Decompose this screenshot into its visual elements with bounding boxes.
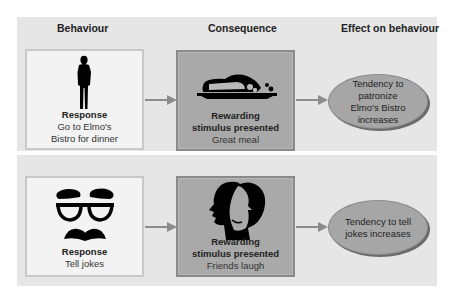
effect-line2: jokes increases — [345, 228, 411, 240]
consequence-desc: Friends laugh — [178, 260, 293, 272]
behaviour-box-1: Response Go to Elmo's Bistro for dinner — [25, 49, 144, 150]
effect-ellipse-1: Tendency to patronize Elmo's Bistro incr… — [328, 74, 428, 129]
response-desc-line1: Go to Elmo's — [27, 121, 142, 133]
consequence-title-line2: stimulus presented — [178, 248, 293, 260]
effect-line2: Elmo's Bistro increases — [335, 102, 421, 126]
behaviour-box-2: Response Tell jokes — [25, 176, 144, 277]
arrow-behaviour-to-consequence-1 — [145, 99, 175, 101]
response-desc-line1: Tell jokes — [27, 258, 142, 270]
arrow-consequence-to-effect-1 — [296, 99, 326, 101]
behaviour-text-2: Response Tell jokes — [27, 246, 142, 270]
consequence-box-1: Rewarding stimulus presented Great meal — [176, 50, 295, 151]
consequence-title-line2: stimulus presented — [178, 122, 293, 134]
laughing-faces-icon — [206, 180, 270, 242]
response-label: Response — [27, 246, 142, 258]
header-consequence: Consequence — [208, 22, 277, 34]
meal-platter-icon — [195, 72, 279, 102]
consequence-text-1: Rewarding stimulus presented Great meal — [178, 110, 293, 146]
standing-man-icon — [69, 55, 99, 111]
consequence-title-line1: Rewarding — [178, 236, 293, 248]
consequence-desc: Great meal — [178, 134, 293, 146]
response-label: Response — [27, 109, 142, 121]
header-behaviour: Behaviour — [57, 22, 108, 34]
consequence-box-2: Rewarding stimulus presented Friends lau… — [176, 176, 295, 277]
effect-ellipse-2: Tendency to tell jokes increases — [328, 200, 428, 255]
header-effect: Effect on behaviour — [341, 22, 439, 34]
behaviour-text-1: Response Go to Elmo's Bistro for dinner — [27, 109, 142, 145]
effect-line1: Tendency to tell — [345, 216, 411, 228]
consequence-title-line1: Rewarding — [178, 110, 293, 122]
arrow-consequence-to-effect-2 — [296, 226, 326, 228]
response-desc-line2: Bistro for dinner — [27, 133, 142, 145]
effect-line1: Tendency to patronize — [335, 78, 421, 102]
consequence-text-2: Rewarding stimulus presented Friends lau… — [178, 236, 293, 272]
groucho-glasses-icon — [54, 187, 116, 247]
arrow-behaviour-to-consequence-2 — [145, 226, 175, 228]
